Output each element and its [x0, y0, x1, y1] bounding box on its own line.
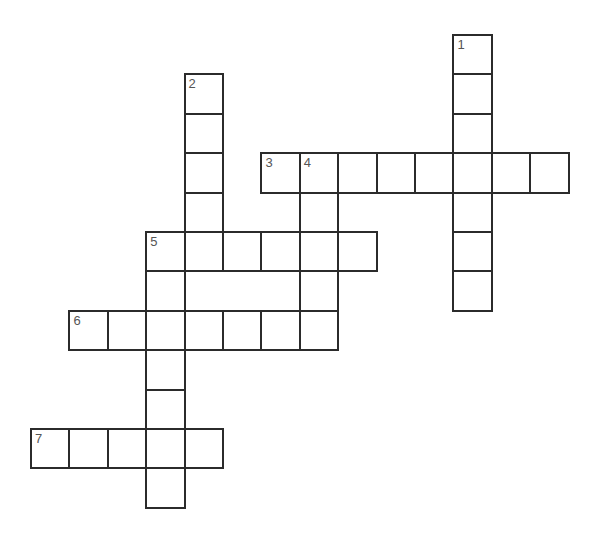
crossword-cell[interactable]	[145, 428, 185, 469]
crossword-cell[interactable]	[145, 467, 185, 508]
crossword-cell[interactable]	[376, 152, 416, 193]
crossword-cell[interactable]	[337, 231, 377, 272]
clue-number: 1	[457, 38, 464, 51]
crossword-grid: 1234567	[0, 0, 600, 537]
crossword-cell[interactable]	[184, 152, 224, 193]
crossword-cell[interactable]	[184, 192, 224, 233]
crossword-cell[interactable]	[299, 310, 339, 351]
crossword-cell[interactable]	[184, 231, 224, 272]
crossword-cell[interactable]: 2	[184, 73, 224, 114]
crossword-cell[interactable]	[299, 192, 339, 233]
clue-number: 4	[304, 156, 311, 169]
crossword-cell[interactable]	[68, 428, 108, 469]
crossword-cell[interactable]	[299, 231, 339, 272]
crossword-cell[interactable]	[222, 231, 262, 272]
crossword-cell[interactable]	[529, 152, 569, 193]
crossword-cell[interactable]: 7	[30, 428, 70, 469]
crossword-cell[interactable]	[337, 152, 377, 193]
crossword-cell[interactable]	[145, 310, 185, 351]
crossword-cell[interactable]: 3	[260, 152, 300, 193]
crossword-cell[interactable]	[452, 73, 492, 114]
crossword-cell[interactable]	[107, 428, 147, 469]
crossword-cell[interactable]	[452, 113, 492, 154]
clue-number: 7	[35, 432, 42, 445]
crossword-cell[interactable]	[145, 270, 185, 311]
crossword-cell[interactable]	[452, 270, 492, 311]
crossword-cell[interactable]: 5	[145, 231, 185, 272]
clue-number: 2	[189, 77, 196, 90]
crossword-cell[interactable]	[452, 152, 492, 193]
crossword-cell[interactable]	[107, 310, 147, 351]
crossword-cell[interactable]	[184, 310, 224, 351]
crossword-cell[interactable]	[260, 231, 300, 272]
crossword-cell[interactable]: 4	[299, 152, 339, 193]
clue-number: 6	[73, 314, 80, 327]
crossword-cell[interactable]	[452, 192, 492, 233]
crossword-cell[interactable]	[222, 310, 262, 351]
crossword-cell[interactable]	[184, 113, 224, 154]
clue-number: 5	[150, 235, 157, 248]
crossword-cell[interactable]	[145, 389, 185, 430]
crossword-cell[interactable]	[145, 349, 185, 390]
crossword-cell[interactable]	[299, 270, 339, 311]
crossword-cell[interactable]	[452, 231, 492, 272]
crossword-cell[interactable]: 6	[68, 310, 108, 351]
crossword-cell[interactable]	[260, 310, 300, 351]
crossword-cell[interactable]: 1	[452, 34, 492, 75]
clue-number: 3	[265, 156, 272, 169]
crossword-cell[interactable]	[414, 152, 454, 193]
crossword-cell[interactable]	[184, 428, 224, 469]
crossword-cell[interactable]	[491, 152, 531, 193]
